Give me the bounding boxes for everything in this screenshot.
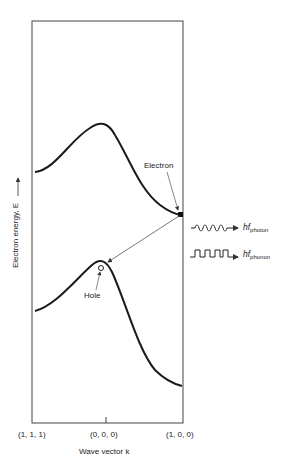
electron-label: Electron [144, 161, 173, 170]
photon-wave-icon [191, 225, 238, 231]
x-tick-000: (0, 0, 0) [90, 430, 118, 439]
recombination-arrow [108, 216, 179, 262]
x-tick-111: (1, 1, 1) [18, 430, 46, 439]
valence-band-curve [35, 261, 182, 386]
x-tick-100: (1, 0, 0) [166, 430, 194, 439]
phonon-wave-icon [190, 250, 238, 257]
y-axis-label: Electron energy, E [11, 181, 20, 291]
phonon-label-sub: phonon [250, 254, 270, 260]
hole-pointer-arrow [96, 272, 100, 290]
photon-label-sub: photon [250, 227, 268, 233]
plot-frame [32, 21, 183, 423]
photon-label: hfphoton [243, 222, 268, 233]
hole-marker [99, 266, 104, 271]
hole-label: Hole [84, 291, 100, 300]
electron-pointer-arrow [167, 172, 178, 210]
band-diagram [0, 0, 293, 466]
phonon-label: hfphonon [243, 249, 270, 260]
x-axis-label: Wave vector k [79, 447, 129, 456]
